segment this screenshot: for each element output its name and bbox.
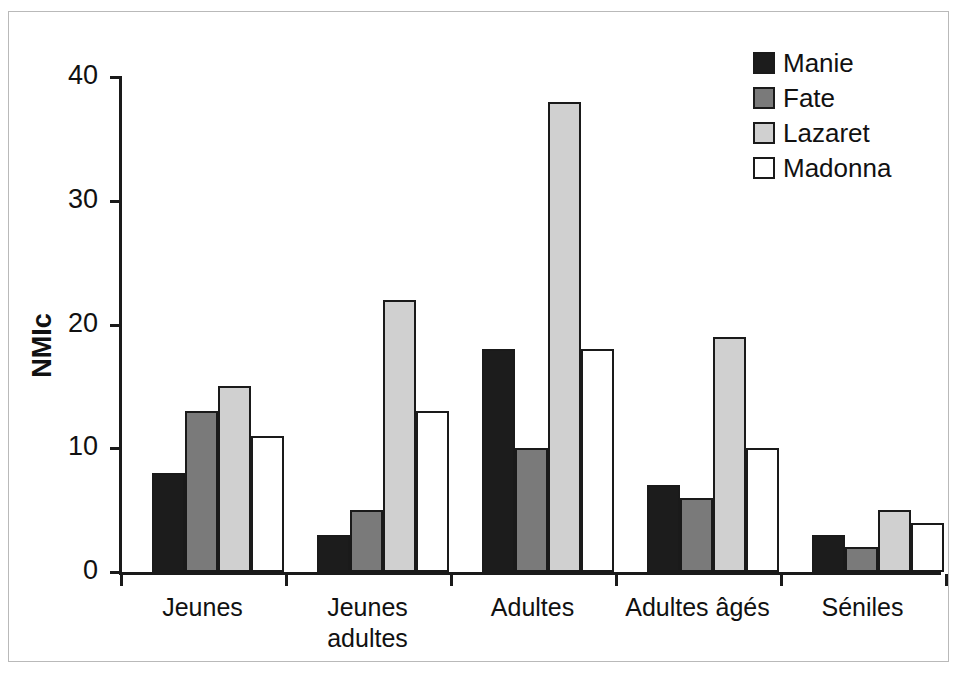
x-axis-category-label: Jeunes adultes bbox=[275, 592, 460, 653]
bar-fate-1 bbox=[350, 510, 383, 572]
legend-swatch-icon bbox=[753, 157, 775, 179]
x-axis-tick bbox=[945, 574, 948, 586]
x-axis-category-label: Séniles bbox=[770, 592, 955, 623]
x-axis-tick bbox=[780, 574, 783, 586]
bar-fate-3 bbox=[680, 498, 713, 572]
legend-item-lazaret: Lazaret bbox=[753, 116, 891, 150]
bar-manie-4 bbox=[812, 535, 845, 572]
bar-madonna-0 bbox=[251, 436, 284, 572]
legend-item-label: Manie bbox=[783, 50, 854, 76]
bar-manie-3 bbox=[647, 485, 680, 572]
legend-item-madonna: Madonna bbox=[753, 151, 891, 185]
bar-madonna-1 bbox=[416, 411, 449, 572]
chart-figure: 010203040 NMIc JeunesJeunes adultesAdult… bbox=[0, 0, 958, 675]
x-axis-tick bbox=[450, 574, 453, 586]
x-axis-tick bbox=[615, 574, 618, 586]
bar-manie-1 bbox=[317, 535, 350, 572]
legend-item-label: Lazaret bbox=[783, 120, 870, 146]
bar-manie-2 bbox=[482, 349, 515, 572]
chart-legend: ManieFateLazaretMadonna bbox=[753, 46, 891, 186]
bar-madonna-4 bbox=[911, 523, 944, 573]
bar-fate-0 bbox=[185, 411, 218, 572]
legend-item-label: Fate bbox=[783, 85, 835, 111]
x-axis-tick bbox=[120, 574, 123, 586]
bar-lazaret-3 bbox=[713, 337, 746, 572]
x-axis-line bbox=[119, 572, 941, 575]
bar-lazaret-1 bbox=[383, 300, 416, 572]
legend-item-manie: Manie bbox=[753, 46, 891, 80]
legend-swatch-icon bbox=[753, 52, 775, 74]
x-axis-category-label: Jeunes bbox=[110, 592, 295, 623]
legend-swatch-icon bbox=[753, 87, 775, 109]
legend-item-label: Madonna bbox=[783, 155, 891, 181]
legend-item-fate: Fate bbox=[753, 81, 891, 115]
bar-lazaret-4 bbox=[878, 510, 911, 572]
legend-swatch-icon bbox=[753, 122, 775, 144]
bar-manie-0 bbox=[152, 473, 185, 572]
bar-fate-2 bbox=[515, 448, 548, 572]
x-axis-category-label: Adultes âgés bbox=[605, 592, 790, 623]
x-axis-tick bbox=[285, 574, 288, 586]
bar-fate-4 bbox=[845, 547, 878, 572]
bar-madonna-3 bbox=[746, 448, 779, 572]
bar-lazaret-2 bbox=[548, 102, 581, 572]
bar-madonna-2 bbox=[581, 349, 614, 572]
bar-lazaret-0 bbox=[218, 386, 251, 572]
x-axis-category-label: Adultes bbox=[440, 592, 625, 623]
